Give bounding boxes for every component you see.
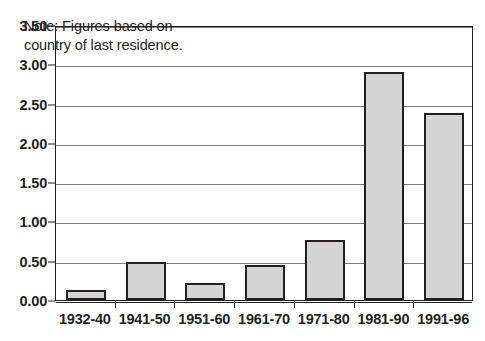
bar-slot bbox=[56, 27, 116, 300]
x-axis-tick-mark bbox=[174, 301, 175, 308]
x-axis-tick-label: 1981-90 bbox=[353, 311, 413, 327]
x-axis-tick-mark bbox=[413, 301, 414, 308]
y-axis-tick-label: 0.00 bbox=[1, 293, 47, 309]
bar bbox=[126, 262, 166, 301]
bar-slot bbox=[175, 27, 235, 300]
y-axis-tick-label: 2.50 bbox=[1, 97, 47, 113]
y-axis-tick-label: 1.50 bbox=[1, 175, 47, 191]
x-axis-tick-label: 1951-60 bbox=[174, 311, 234, 327]
x-axis-tick-label: 1991-96 bbox=[413, 311, 473, 327]
bar bbox=[424, 113, 464, 300]
x-axis-tick-mark bbox=[115, 301, 116, 308]
y-axis-tick-mark bbox=[48, 104, 55, 105]
x-axis-tick-label: 1941-50 bbox=[115, 311, 175, 327]
x-axis-tick-label: 1971-80 bbox=[294, 311, 354, 327]
bar bbox=[185, 283, 225, 300]
y-axis-tick-mark bbox=[48, 261, 55, 262]
y-axis-tick-mark bbox=[48, 65, 55, 66]
x-axis-tick-label: 1961-70 bbox=[234, 311, 294, 327]
bar-slot bbox=[235, 27, 295, 300]
y-axis-tick-mark bbox=[48, 301, 55, 302]
x-axis-tick-mark bbox=[234, 301, 235, 308]
note-annotation: Note: Figures based on country of last r… bbox=[24, 17, 183, 55]
bar bbox=[66, 290, 106, 300]
bar-slot bbox=[355, 27, 415, 300]
bar bbox=[364, 72, 404, 300]
x-axis-tick-label: 1932-40 bbox=[55, 311, 115, 327]
y-axis-tick-mark bbox=[48, 143, 55, 144]
y-axis-tick-label: 1.00 bbox=[1, 214, 47, 230]
x-axis-tick-mark bbox=[294, 301, 295, 308]
bar-slot bbox=[116, 27, 176, 300]
bar-series bbox=[56, 27, 472, 300]
bar-slot bbox=[414, 27, 474, 300]
bar bbox=[245, 265, 285, 300]
y-axis-tick-label: 2.00 bbox=[1, 136, 47, 152]
y-axis-tick-mark bbox=[48, 183, 55, 184]
y-axis-tick-label: 0.50 bbox=[1, 254, 47, 270]
plot-area bbox=[55, 26, 473, 301]
y-axis-tick-mark bbox=[48, 222, 55, 223]
x-axis-tick-mark bbox=[354, 301, 355, 308]
y-axis-tick-label: 3.00 bbox=[1, 57, 47, 73]
bar bbox=[305, 240, 345, 300]
gridline bbox=[56, 302, 472, 303]
bar-chart-figure: 0.000.501.001.502.002.503.003.50 1932-40… bbox=[0, 0, 485, 341]
bar-slot bbox=[295, 27, 355, 300]
